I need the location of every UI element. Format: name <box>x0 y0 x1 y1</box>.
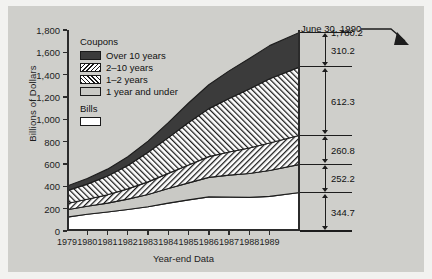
x-tick <box>147 231 148 235</box>
x-tick-label: 1989 <box>260 237 280 247</box>
x-axis-line <box>67 229 300 231</box>
y-tick <box>63 163 67 164</box>
bracket-arrow-down <box>322 188 328 192</box>
legend-item-over-10-years: Over 10 years <box>80 50 178 61</box>
x-tick <box>188 231 189 235</box>
bracket-arrow-up <box>322 33 328 37</box>
bracket-arrow-up <box>322 165 328 169</box>
y-tick-label: 400 <box>44 181 60 192</box>
y-axis-line <box>67 30 69 231</box>
bracket-arrow-line <box>325 70 326 132</box>
y-tick-label: 1,800 <box>36 25 60 36</box>
legend-swatch-over-10-years <box>80 51 101 60</box>
y-tick <box>63 52 67 53</box>
y-tick <box>63 186 67 187</box>
x-tick-label: 1984 <box>158 237 178 247</box>
chart-figure: Billions of Dollars 02004006008001,0001,… <box>8 6 424 272</box>
final-total-label: 1,780.2 <box>331 27 363 38</box>
legend-label-1-2-years: 1–2 years <box>106 74 148 85</box>
x-tick <box>269 231 270 235</box>
y-tick-label: 1,200 <box>36 92 60 103</box>
legend-item-1-2-years: 1–2 years <box>80 74 178 85</box>
y-tick <box>63 119 67 120</box>
bracket-arrow-down <box>322 62 328 66</box>
bracket-arrow-line <box>325 138 326 161</box>
x-tick-label: 1979 <box>57 237 77 247</box>
x-tick-label: 1982 <box>118 237 138 247</box>
x-tick-label: 1988 <box>239 237 259 247</box>
legend-item-bills <box>80 116 178 127</box>
y-tick-label: 600 <box>44 159 60 170</box>
x-tick-label: 1986 <box>199 237 219 247</box>
y-tick <box>63 74 67 75</box>
legend-swatch-2-10-years <box>80 63 101 72</box>
segment-value-label: 612.3 <box>331 96 355 107</box>
bracket-arrow-line <box>325 196 326 228</box>
bracket-arrow-down <box>322 226 328 230</box>
x-tick <box>107 231 108 235</box>
bracket-arrow-up <box>322 136 328 140</box>
x-tick-label: 1985 <box>179 237 199 247</box>
x-tick <box>87 231 88 235</box>
legend-label-2-10-years: 2–10 years <box>106 62 153 73</box>
legend: Coupons Over 10 years 2–10 years 1–2 yea… <box>80 36 178 128</box>
segment-value-label: 260.8 <box>331 144 355 155</box>
bracket-arrow-down <box>322 159 328 163</box>
bracket-arrow-up <box>322 194 328 198</box>
legend-swatch-1-year-and-under <box>80 87 101 96</box>
x-tick <box>168 231 169 235</box>
legend-swatch-1-2-years <box>80 75 101 84</box>
legend-label-over-10-years: Over 10 years <box>106 50 166 61</box>
legend-swatch-bills <box>80 117 101 126</box>
x-tick <box>228 231 229 235</box>
bracket-arrow-line <box>325 167 326 189</box>
bracket-boundary-line <box>300 230 352 231</box>
y-tick-label: 800 <box>44 136 60 147</box>
y-tick-label: 0 <box>55 226 60 237</box>
y-tick <box>63 230 67 231</box>
y-tick <box>63 208 67 209</box>
x-tick <box>208 231 209 235</box>
y-tick-label: 1,000 <box>36 114 60 125</box>
legend-label-1-year-and-under: 1 year and under <box>106 86 178 97</box>
y-tick <box>63 96 67 97</box>
final-breakdown-brackets: 1,780.2310.2612.3260.8252.2344.7 <box>300 30 430 231</box>
bracket-arrow-line <box>325 35 326 64</box>
legend-item-1-year-and-under: 1 year and under <box>80 86 178 97</box>
segment-value-label: 252.2 <box>331 173 355 184</box>
bracket-arrow-down <box>322 130 328 134</box>
y-tick <box>63 29 67 30</box>
legend-title-coupons: Coupons <box>80 36 178 47</box>
x-tick-label: 1987 <box>219 237 239 247</box>
y-tick-label: 200 <box>44 203 60 214</box>
segment-value-label: 310.2 <box>331 44 355 55</box>
legend-title-bills: Bills <box>80 103 178 114</box>
bracket-arrow-up <box>322 68 328 72</box>
y-tick <box>63 141 67 142</box>
x-tick-label: 1983 <box>138 237 158 247</box>
y-axis-title: Billions of Dollars <box>27 44 38 164</box>
segment-value-label: 344.7 <box>331 206 355 217</box>
x-tick <box>127 231 128 235</box>
x-tick-label: 1980 <box>77 237 97 247</box>
y-tick-label: 1,600 <box>36 47 60 58</box>
legend-item-2-10-years: 2–10 years <box>80 62 178 73</box>
y-tick-label: 1,400 <box>36 69 60 80</box>
x-axis-title: Year-end Data <box>67 253 300 264</box>
x-tick <box>249 231 250 235</box>
x-tick-label: 1981 <box>98 237 118 247</box>
